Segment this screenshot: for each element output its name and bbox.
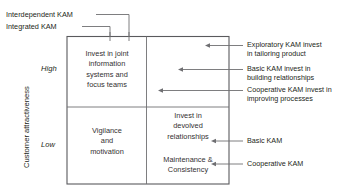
cell-bottom-right-upper-text: Invest in devolved relationships (148, 111, 228, 142)
arrowhead-cooperative-kam-processes (158, 88, 163, 92)
label-interdependent-kam: Interdependent KAM (6, 10, 73, 19)
label-integrated-kam: Integrated KAM (6, 22, 57, 31)
axis-title-customer-attractiveness: Customer attractiveness (22, 86, 31, 168)
cell-top-left-text: Invest in joint information systems and … (68, 49, 146, 91)
arrowhead-exploratory-kam (205, 43, 210, 47)
axis-tick-low: Low (41, 140, 55, 149)
cell-bottom-left-text: Vigilance and motivation (68, 126, 146, 157)
right-label-exploratory-kam: Exploratory KAM invest in tailoring prod… (247, 41, 343, 59)
connector-interdependent-kam (96, 15, 129, 37)
right-label-basic-kam: Basic KAM (247, 137, 343, 146)
right-label-basic-kam-building: Basic KAM invest in building relationshi… (247, 65, 343, 83)
right-label-cooperative-kam: Cooperative KAM (247, 160, 343, 169)
right-label-cooperative-kam-processes: Cooperative KAM invest in improving proc… (247, 86, 345, 104)
cell-bottom-right-lower-text: Maintenance & Consistency (148, 155, 228, 176)
arrowhead-basic-kam-building (178, 67, 183, 71)
axis-tick-high: High (41, 64, 57, 73)
connector-integrated-kam (82, 27, 110, 37)
diagram-canvas: Interdependent KAM Integrated KAM Custom… (0, 0, 345, 192)
